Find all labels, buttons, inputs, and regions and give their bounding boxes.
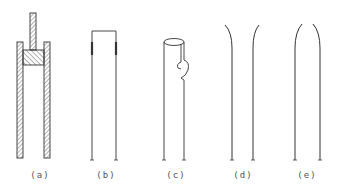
panel-d-figure [225,25,259,160]
panel-a-label: (a) [30,170,49,180]
panel-e-label: (e) [297,170,316,180]
panel-c-label: (c) [166,170,185,180]
panel-d-left-wall [225,25,232,160]
panel-d-label: (d) [233,170,252,180]
diagram-canvas [0,0,337,192]
panel-a-left-wall [17,42,23,158]
panel-e-right-wall [313,24,320,160]
panel-b-label: (b) [96,170,115,180]
panel-e-left-wall [295,24,302,160]
panel-c-hook-slit [177,60,188,160]
panel-a-figure [17,13,50,158]
panel-a-rod [30,13,36,50]
panel-e-figure [293,24,322,160]
panel-b-figure [90,31,118,160]
panel-a-right-wall [44,42,50,158]
panel-a-piston [23,50,44,65]
panel-d-right-wall [253,25,259,160]
panel-c-figure [162,39,189,161]
